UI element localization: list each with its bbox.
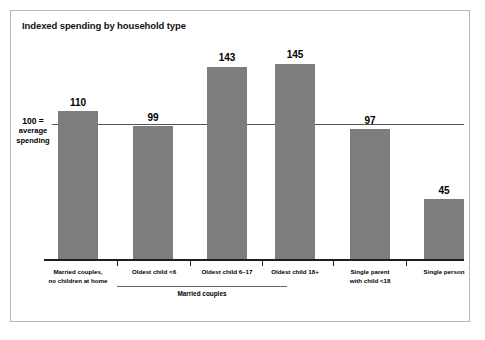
bar-oldest-child-18-plus[interactable]: [275, 64, 315, 259]
x-axis-tick-4: [333, 261, 334, 266]
reference-line-label-line1: 100 =: [10, 116, 56, 126]
x-axis-label-oldest-child-18-plus: Oldest child 18+: [259, 268, 331, 277]
x-axis-label-line1: Single person: [424, 268, 465, 275]
group-bracket-line: [117, 286, 287, 287]
reference-line-100: [52, 124, 464, 125]
x-axis-label-oldest-child-6-17: Oldest child 6–17: [191, 268, 263, 277]
bar-value-single-person: 45: [424, 185, 464, 196]
bar-oldest-child-under-6[interactable]: [133, 126, 173, 259]
x-axis-label-line1: Oldest child 6–17: [202, 268, 253, 275]
bar-value-oldest-child-18-plus: 145: [275, 49, 315, 60]
bar-oldest-child-6-17[interactable]: [207, 67, 247, 259]
x-axis-label-line1: Oldest child 18+: [271, 268, 319, 275]
reference-line-label: 100 = average spending: [10, 116, 56, 146]
bar-value-oldest-child-under-6: 99: [133, 112, 173, 123]
x-axis-label-single-parent-with-child: Single parent with child <18: [334, 268, 406, 285]
x-axis-label-single-person: Single person: [408, 268, 480, 277]
chart-figure: Indexed spending by household type 100 =…: [0, 0, 485, 340]
bar-single-person[interactable]: [424, 199, 464, 259]
x-axis-line: [44, 259, 464, 261]
plot-area: 100 = average spending 110 99 143 145 97…: [0, 0, 485, 340]
bar-value-single-parent-with-child: 97: [350, 115, 390, 126]
x-axis-label-line1: Married couples,: [53, 268, 102, 275]
x-axis-label-line2: with child <18: [350, 277, 391, 284]
reference-line-label-line3: spending: [16, 136, 49, 145]
bar-value-married-couples-no-children: 110: [58, 97, 98, 108]
bar-value-oldest-child-6-17: 143: [207, 52, 247, 63]
x-axis-label-oldest-child-under-6: Oldest child <6: [118, 268, 190, 277]
bar-married-couples-no-children[interactable]: [58, 111, 98, 259]
x-axis-tick-1: [117, 261, 118, 266]
x-axis-tick-5: [406, 261, 407, 266]
reference-line-label-line2: average: [19, 126, 47, 135]
x-axis-label-line1: Single parent: [350, 268, 389, 275]
x-axis-tick-2: [190, 261, 191, 266]
x-axis-label-line2: no children at home: [49, 277, 108, 284]
group-bracket-label: Married couples: [117, 290, 287, 297]
x-axis-label-married-couples-no-children: Married couples, no children at home: [38, 268, 118, 285]
x-axis-tick-3: [262, 261, 263, 266]
x-axis-label-line1: Oldest child <6: [132, 268, 176, 275]
bar-single-parent-with-child[interactable]: [350, 129, 390, 259]
